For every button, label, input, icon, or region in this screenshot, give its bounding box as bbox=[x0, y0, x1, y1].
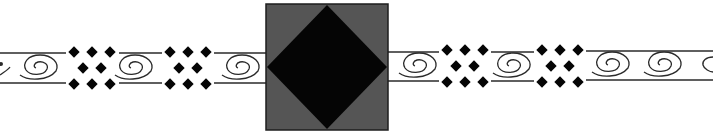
spiral-icon bbox=[115, 55, 152, 79]
ornamental-border bbox=[0, 0, 713, 136]
spiral-icon bbox=[20, 55, 57, 79]
spiral-icon bbox=[222, 55, 259, 79]
diamond-cluster-icon bbox=[68, 46, 115, 89]
diamond-cluster-icon bbox=[536, 44, 583, 87]
border-artwork bbox=[0, 0, 713, 136]
spiral-icon bbox=[644, 52, 681, 76]
spiral-icon bbox=[493, 53, 530, 77]
spiral-icon bbox=[399, 53, 436, 77]
diamond-cluster-icon bbox=[164, 46, 211, 89]
diamond-cluster-icon bbox=[441, 44, 488, 87]
spiral-icon bbox=[592, 52, 629, 76]
central-medallion bbox=[266, 4, 388, 130]
